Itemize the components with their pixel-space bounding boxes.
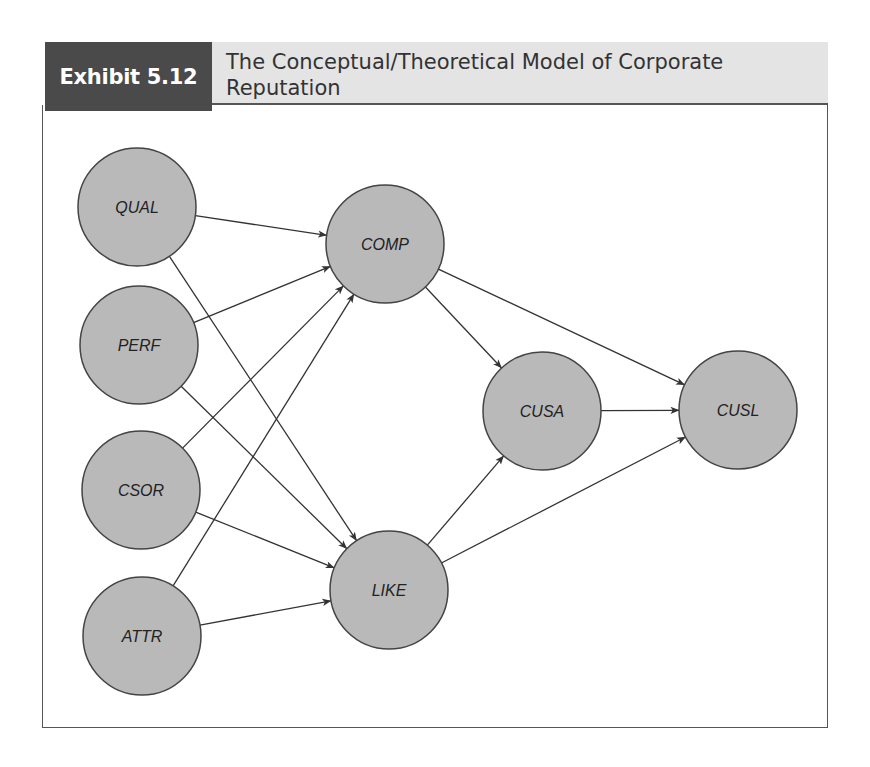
edge-comp-to-cusa — [425, 287, 501, 368]
path-model-diagram: QUALPERFCSORATTRCOMPLIKECUSACUSL — [0, 0, 870, 767]
node-label: ATTR — [121, 628, 163, 645]
edge-csor-to-comp — [183, 286, 344, 448]
edge-attr-to-comp — [173, 294, 354, 586]
node-label: CUSA — [520, 403, 564, 420]
node-perf: PERF — [80, 286, 198, 404]
node-comp: COMP — [326, 185, 444, 303]
edge-perf-to-like — [181, 386, 347, 548]
node-label: PERF — [118, 337, 162, 354]
edge-perf-to-comp — [194, 266, 331, 322]
node-label: CSOR — [118, 482, 165, 499]
node-label: COMP — [361, 236, 409, 253]
node-csor: CSOR — [82, 431, 200, 549]
node-cusl: CUSL — [679, 351, 797, 469]
edge-qual-to-comp — [195, 216, 326, 236]
node-qual: QUAL — [78, 148, 196, 266]
node-label: LIKE — [372, 582, 407, 599]
nodes: QUALPERFCSORATTRCOMPLIKECUSACUSL — [78, 148, 797, 695]
node-cusa: CUSA — [483, 352, 601, 470]
node-label: CUSL — [717, 402, 760, 419]
edge-csor-to-like — [196, 512, 335, 568]
node-label: QUAL — [115, 199, 159, 216]
edge-attr-to-like — [200, 601, 331, 625]
edge-like-to-cusa — [427, 456, 503, 545]
node-like: LIKE — [330, 531, 448, 649]
node-attr: ATTR — [83, 577, 201, 695]
